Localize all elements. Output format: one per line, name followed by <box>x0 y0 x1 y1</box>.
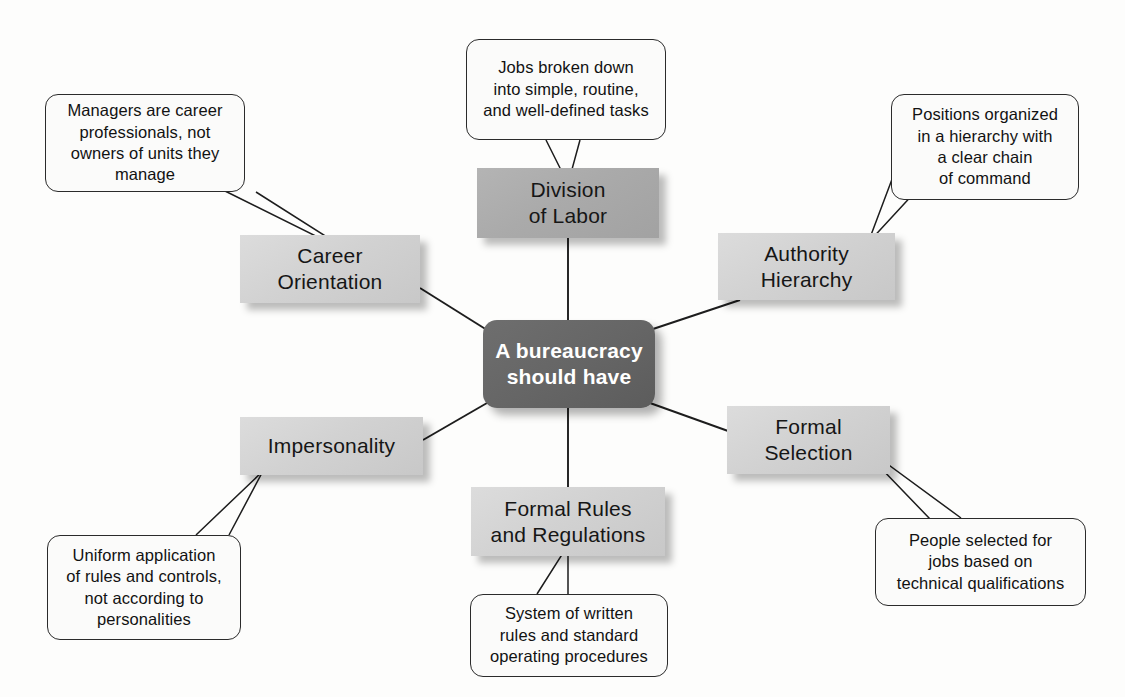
concept-career-orientation[interactable]: Career Orientation <box>240 235 420 303</box>
concept-authority-hierarchy[interactable]: Authority Hierarchy <box>718 233 895 300</box>
concept-label: Authority Hierarchy <box>761 241 853 292</box>
center-node[interactable]: A bureaucracy should have <box>483 320 655 408</box>
center-node-label: A bureaucracy should have <box>495 338 643 391</box>
callout-authority-hierarchy[interactable]: Positions organized in a hierarchy with … <box>891 94 1079 200</box>
concept-label: Career Orientation <box>278 243 383 294</box>
spoke-impersonality <box>423 403 487 440</box>
concept-label: Impersonality <box>268 433 395 459</box>
callout-text: Jobs broken down into simple, routine, a… <box>483 57 648 121</box>
spoke-career-orientation <box>420 288 487 330</box>
concept-formal-selection[interactable]: Formal Selection <box>727 406 890 474</box>
callout-text: Positions organized in a hierarchy with … <box>912 104 1058 190</box>
concept-label: Formal Selection <box>764 414 852 465</box>
tail-impersonality <box>196 471 263 535</box>
concept-impersonality[interactable]: Impersonality <box>240 417 423 475</box>
callout-formal-rules-regulations[interactable]: System of written rules and standard ope… <box>470 594 668 677</box>
callout-impersonality[interactable]: Uniform application of rules and control… <box>47 535 241 640</box>
concept-label: Formal Rules and Regulations <box>491 496 646 547</box>
callout-text: People selected for jobs based on techni… <box>897 530 1065 594</box>
callout-career-orientation[interactable]: Managers are career professionals, not o… <box>45 94 245 192</box>
callout-formal-selection[interactable]: People selected for jobs based on techni… <box>875 518 1086 606</box>
callout-text: Uniform application of rules and control… <box>66 545 221 631</box>
callout-division-of-labor[interactable]: Jobs broken down into simple, routine, a… <box>466 39 666 140</box>
callout-text: Managers are career professionals, not o… <box>67 100 222 186</box>
callout-text: System of written rules and standard ope… <box>490 603 648 667</box>
concept-label: Division of Labor <box>529 177 608 228</box>
spoke-authority-hierarchy <box>650 300 740 330</box>
concept-division-of-labor[interactable]: Division of Labor <box>477 168 659 238</box>
concept-formal-rules-regulations[interactable]: Formal Rules and Regulations <box>471 487 665 556</box>
bureaucracy-diagram: A bureaucracy should have Division of La… <box>0 0 1125 697</box>
